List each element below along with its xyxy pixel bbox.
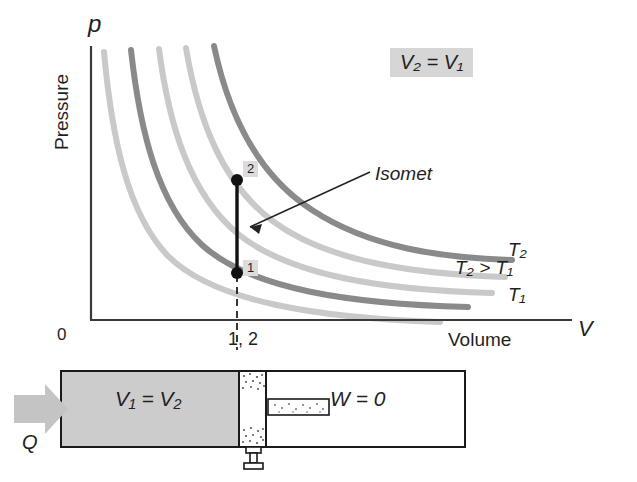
isotherm-curve-4 bbox=[186, 48, 505, 277]
x-axis-label: Volume bbox=[448, 330, 511, 349]
process-name-label: Isomet bbox=[375, 164, 432, 183]
temperature-comparison: T₂ > T₁ bbox=[455, 258, 513, 277]
isotherm-label-t1: T₁ bbox=[508, 285, 526, 304]
y-axis-label: Pressure bbox=[52, 74, 71, 150]
x-axis-state-tick-label: 1, 2 bbox=[228, 330, 258, 348]
y-axis-symbol: p bbox=[88, 12, 101, 36]
isotherm-curves bbox=[104, 46, 512, 322]
gas-volume-label: V₁ = V₂ bbox=[115, 388, 182, 409]
pv-diagram bbox=[0, 0, 637, 482]
x-axis-symbol: V bbox=[578, 318, 593, 340]
state-label-2: 2 bbox=[243, 161, 258, 177]
state-point-1 bbox=[231, 267, 243, 279]
origin-label: 0 bbox=[57, 326, 66, 343]
state-label-1: 1 bbox=[243, 260, 258, 276]
heat-arrow bbox=[14, 384, 68, 434]
cylinder-device bbox=[14, 371, 465, 469]
state-point-2 bbox=[231, 174, 243, 186]
locking-pin bbox=[244, 447, 263, 469]
work-label: W = 0 bbox=[330, 388, 385, 409]
volume-equality-callout: V₂ = V₁ bbox=[390, 48, 473, 77]
thermodynamics-figure: p Pressure 0 Volume V T₂ T₁ T₂ > T₁ V₂ =… bbox=[0, 0, 637, 482]
isomet-leader bbox=[250, 172, 370, 234]
heat-label: Q bbox=[22, 432, 38, 452]
